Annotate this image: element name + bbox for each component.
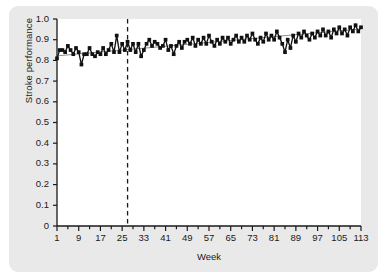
- series-marker: [93, 54, 97, 58]
- y-tick-label: 0.2: [23, 178, 49, 189]
- series-marker: [261, 40, 265, 44]
- series-marker: [134, 50, 138, 54]
- x-tick-label: 9: [67, 232, 91, 243]
- series-marker: [204, 42, 208, 46]
- series-marker: [172, 52, 176, 56]
- series-marker: [299, 36, 303, 40]
- series-marker: [313, 36, 317, 40]
- series-marker: [137, 42, 141, 46]
- series-marker: [245, 34, 249, 38]
- series-marker: [348, 25, 352, 29]
- series-marker: [310, 32, 314, 36]
- series-marker: [196, 38, 200, 42]
- series-marker: [215, 38, 219, 42]
- x-tick-label: 73: [240, 232, 264, 243]
- series-marker: [289, 46, 293, 50]
- series-marker: [185, 38, 189, 42]
- series-marker: [335, 32, 339, 36]
- series-marker: [66, 44, 70, 48]
- y-tick-label: 0.1: [23, 199, 49, 210]
- series-marker: [161, 44, 165, 48]
- series-marker: [291, 34, 295, 38]
- series-marker: [340, 32, 344, 36]
- series-marker: [85, 52, 89, 56]
- trend-line: [57, 29, 361, 56]
- series-marker: [302, 30, 306, 34]
- x-axis-label: Week: [57, 251, 361, 262]
- series-marker: [229, 42, 233, 46]
- series-marker: [226, 36, 230, 40]
- series-marker: [213, 44, 217, 48]
- series-marker: [202, 36, 206, 40]
- series-marker: [354, 23, 358, 27]
- x-tick-label: 49: [175, 232, 199, 243]
- series-marker: [55, 56, 59, 60]
- series-marker: [318, 34, 322, 38]
- series-marker: [180, 46, 184, 50]
- x-tick-label: 57: [197, 232, 221, 243]
- x-tick-label: 17: [88, 232, 112, 243]
- series-marker: [218, 42, 222, 46]
- y-tick-label: 0.3: [23, 157, 49, 168]
- x-tick-label: 81: [262, 232, 286, 243]
- x-tick-label: 97: [306, 232, 330, 243]
- series-marker: [316, 30, 320, 34]
- series-marker: [166, 48, 170, 52]
- series-marker: [104, 52, 108, 56]
- series-marker: [139, 54, 143, 58]
- x-tick-label: 113: [349, 232, 373, 243]
- series-marker: [327, 30, 331, 34]
- series-marker: [346, 34, 350, 38]
- series-marker: [332, 28, 336, 32]
- series-marker: [264, 32, 268, 36]
- x-tick-label: 33: [132, 232, 156, 243]
- series-marker: [175, 44, 179, 48]
- series-marker: [308, 38, 312, 42]
- series-marker: [259, 36, 263, 40]
- x-tick-label: 89: [284, 232, 308, 243]
- series-marker: [223, 40, 227, 44]
- series-marker: [278, 36, 282, 40]
- series-marker: [321, 28, 325, 32]
- series-marker: [234, 34, 238, 38]
- series-marker: [147, 38, 151, 42]
- y-tick-label: 0.4: [23, 137, 49, 148]
- series-marker: [101, 46, 105, 50]
- series-marker: [237, 40, 241, 44]
- x-tick-label: 105: [327, 232, 351, 243]
- series-marker: [210, 40, 214, 44]
- series-marker: [356, 30, 360, 34]
- series-marker: [150, 44, 154, 48]
- series-marker: [329, 36, 333, 40]
- y-tick-label: 0.6: [23, 95, 49, 106]
- series-marker: [275, 30, 279, 34]
- series-marker: [359, 25, 363, 29]
- series-marker: [232, 38, 236, 42]
- y-tick-label: 0.8: [23, 54, 49, 65]
- series-marker: [128, 48, 132, 52]
- series-marker: [191, 36, 195, 40]
- series-marker: [242, 40, 246, 44]
- series-marker: [343, 28, 347, 32]
- series-marker: [256, 42, 260, 46]
- series-marker: [207, 34, 211, 38]
- series-marker: [115, 34, 119, 38]
- series-marker: [270, 34, 274, 38]
- series-marker: [337, 25, 341, 29]
- series-marker: [169, 44, 173, 48]
- series-marker: [297, 32, 301, 36]
- series-marker: [194, 44, 198, 48]
- y-tick-label: 1.0: [23, 13, 49, 24]
- series-marker: [109, 42, 113, 46]
- series-line: [57, 25, 361, 64]
- x-tick-label: 65: [219, 232, 243, 243]
- series-marker: [145, 42, 149, 46]
- series-marker: [123, 48, 127, 52]
- series-marker: [112, 50, 116, 54]
- series-marker: [77, 50, 81, 54]
- chart-figure: Stroke performance Week 1.00.90.80.70.60…: [0, 0, 387, 280]
- series-marker: [63, 50, 67, 54]
- series-marker: [142, 48, 146, 52]
- y-tick-label: 0.7: [23, 75, 49, 86]
- series-marker: [267, 38, 271, 42]
